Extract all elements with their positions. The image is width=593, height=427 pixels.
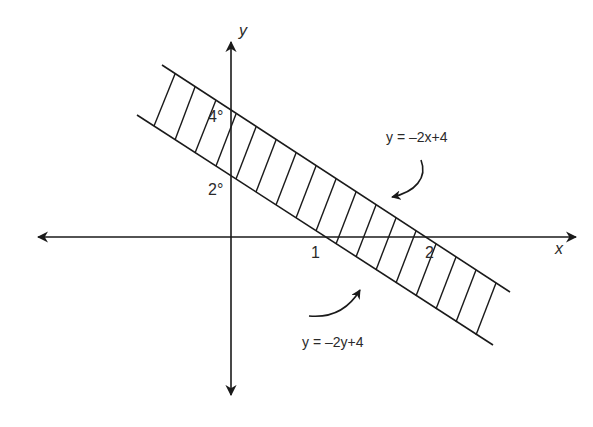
y-axis-label: y [238,22,248,39]
lower-line-equation: y = –2y+4 [302,334,364,350]
hatch-lines [154,74,496,335]
coordinate-graph: y x 4° 2° 1 2 y = –2x+4 y = –2y+4 [0,0,593,427]
x-axis-label: x [554,240,564,257]
y-tick-2: 2° [208,181,223,198]
upper-annotation-arrow-icon [392,160,423,197]
lower-annotation-arrow-icon [309,290,360,316]
lower-boundary-line [137,115,493,345]
x-tick-2: 2 [425,244,434,261]
upper-boundary-line [162,65,510,292]
y-tick-4: 4° [208,108,223,125]
x-tick-1: 1 [311,244,320,261]
upper-line-equation: y = –2x+4 [386,129,448,145]
